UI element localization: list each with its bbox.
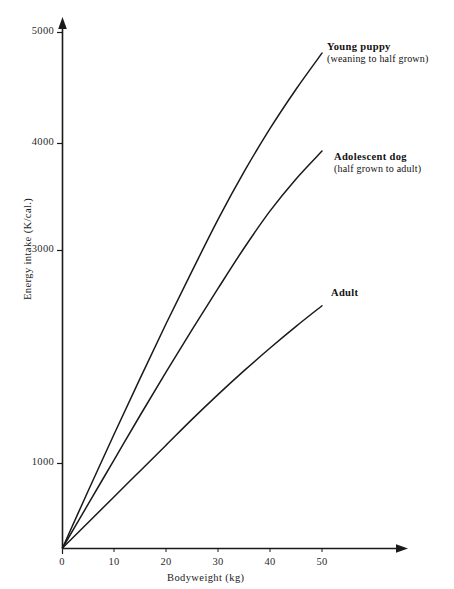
x-axis-ticks [63,549,323,555]
series-label-young-puppy-title: Young puppy [327,40,429,53]
x-tick-label-20: 20 [155,556,177,567]
series-label-young-puppy-sub: (weaning to half grown) [327,53,429,65]
x-axis-title: Bodyweight (kg) [167,572,244,583]
series-label-adolescent-dog-title: Adolescent dog [334,150,421,163]
y-tick-label-5000: 5000 [20,25,54,36]
series-label-adult-title: Adult [331,286,358,299]
series-line-adult [63,306,323,548]
y-tick-label-4000: 4000 [20,136,54,147]
series-label-adolescent-dog-sub: (half grown to adult) [334,163,421,175]
series-label-young-puppy: Young puppy (weaning to half grown) [327,40,429,65]
y-axis-title: Energy intake (K/cal.) [22,198,33,300]
y-tick-label-1000: 1000 [20,456,54,467]
series-line-young-puppy [63,53,323,548]
x-tick-label-50: 50 [311,556,333,567]
series-label-adolescent-dog: Adolescent dog (half grown to adult) [334,150,421,175]
series-label-adult: Adult [331,286,358,299]
series-line-adolescent-dog [63,151,323,548]
y-axis-ticks [57,33,63,464]
x-tick-label-40: 40 [259,556,281,567]
x-tick-label-0: 0 [52,556,72,567]
chart-plot-area [0,0,454,589]
x-tick-label-10: 10 [103,556,125,567]
y-axis [58,17,67,548]
x-tick-label-30: 30 [207,556,229,567]
chart-container: 5000 4000 3000 1000 0 10 20 30 40 50 Bod… [0,0,454,589]
